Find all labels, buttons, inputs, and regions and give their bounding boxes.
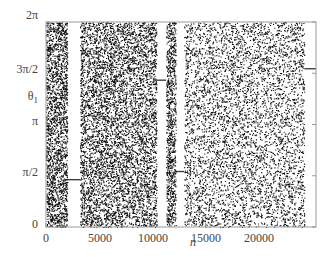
y-tick-2pi: 2π: [0, 8, 38, 23]
x-tick-0: 0: [21, 231, 71, 246]
y-tick-pi: π: [0, 114, 38, 129]
y-axis-title: θ1: [0, 89, 38, 105]
x-tick-10000: 10000: [128, 231, 178, 246]
x-tick-15000: 15000: [181, 231, 231, 246]
x-tick-5000: 5000: [75, 231, 125, 246]
y-tick-0: 0: [0, 217, 38, 232]
y-tick-pi-2: π/2: [0, 165, 38, 180]
y-axis-title-subscript: 1: [34, 95, 39, 105]
scatter-plot: [0, 0, 335, 257]
x-tick-20000: 20000: [234, 231, 284, 246]
scatter-points: [46, 22, 305, 228]
y-tick-3pi-2: 3π/2: [0, 62, 38, 77]
